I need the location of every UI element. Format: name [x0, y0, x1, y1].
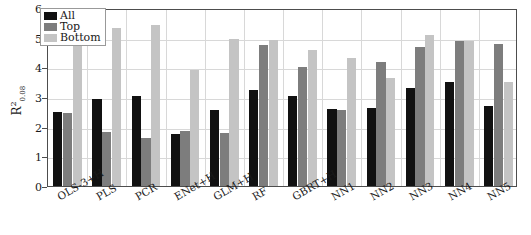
- bar-top: [376, 62, 385, 186]
- bar-all: [484, 106, 493, 186]
- bar-bottom: [190, 70, 199, 186]
- legend-swatch-all-icon: [44, 12, 57, 20]
- bar-bottom: [464, 41, 473, 186]
- bar-top: [180, 131, 189, 186]
- bar-bottom: [308, 50, 317, 186]
- bar-all: [171, 134, 180, 187]
- bar-bottom: [229, 39, 238, 186]
- bar-group: [445, 10, 474, 186]
- x-axis-label: RF: [250, 184, 269, 202]
- bar-top: [220, 133, 229, 186]
- bar-top: [298, 67, 307, 186]
- bar-bottom: [112, 28, 121, 186]
- bar-bottom: [151, 25, 160, 186]
- legend-item-bottom: Bottom: [44, 32, 101, 43]
- bar-group: [132, 10, 161, 186]
- gridline-vertical: [126, 10, 127, 186]
- y-axis-label-superscript: 2: [9, 101, 18, 106]
- legend-swatch-top-icon: [44, 23, 57, 31]
- bar-group: [249, 10, 278, 186]
- bar-group: [406, 10, 435, 186]
- bar-top: [455, 41, 464, 186]
- bar-bottom: [269, 40, 278, 186]
- y-axis-tick-label: 4: [26, 63, 42, 74]
- bar-all: [288, 96, 297, 186]
- bar-top: [337, 110, 346, 186]
- gridline-vertical: [440, 10, 441, 186]
- gridline-vertical: [166, 10, 167, 186]
- bar-group: [327, 10, 356, 186]
- gridline-vertical: [322, 10, 323, 186]
- bar-all: [406, 88, 415, 186]
- bar-all: [132, 96, 141, 186]
- gridline-vertical: [361, 10, 362, 186]
- gridline-vertical: [283, 10, 284, 186]
- y-axis-tick-label: 3: [26, 93, 42, 104]
- bar-group: [288, 10, 317, 186]
- bar-group: [210, 10, 239, 186]
- bar-top: [494, 44, 503, 186]
- gridline-vertical: [401, 10, 402, 186]
- bar-top: [415, 47, 424, 186]
- bar-bottom: [504, 82, 513, 186]
- bar-all: [445, 82, 454, 186]
- bar-all: [53, 112, 62, 186]
- bar-all: [367, 108, 376, 186]
- bar-group: [171, 10, 200, 186]
- legend: All Top Bottom: [40, 8, 106, 46]
- bar-bottom: [73, 41, 82, 186]
- bar-bottom: [425, 35, 434, 186]
- y-axis-tick-label: 2: [26, 123, 42, 134]
- bar-top: [141, 138, 150, 186]
- gridline-vertical: [244, 10, 245, 186]
- y-axis-tick-label: 0: [26, 182, 42, 193]
- gridline-vertical: [479, 10, 480, 186]
- legend-swatch-bottom-icon: [44, 34, 57, 42]
- bar-group: [484, 10, 513, 186]
- plot-area: [47, 9, 517, 187]
- bar-group: [367, 10, 396, 186]
- bar-top: [63, 113, 72, 186]
- gridline-vertical: [205, 10, 206, 186]
- legend-label-bottom: Bottom: [60, 32, 101, 43]
- y-axis-tick-label: 1: [26, 152, 42, 163]
- bar-bottom: [386, 78, 395, 186]
- y-axis-tick: [42, 187, 47, 188]
- y-axis-label-base: R: [10, 107, 24, 116]
- bar-top: [259, 45, 268, 186]
- bar-bottom: [347, 58, 356, 186]
- bar-chart: R20.08 0123456 OLS-3+HPLSPCRENet+HGLM+HR…: [0, 0, 531, 235]
- bar-top: [102, 132, 111, 186]
